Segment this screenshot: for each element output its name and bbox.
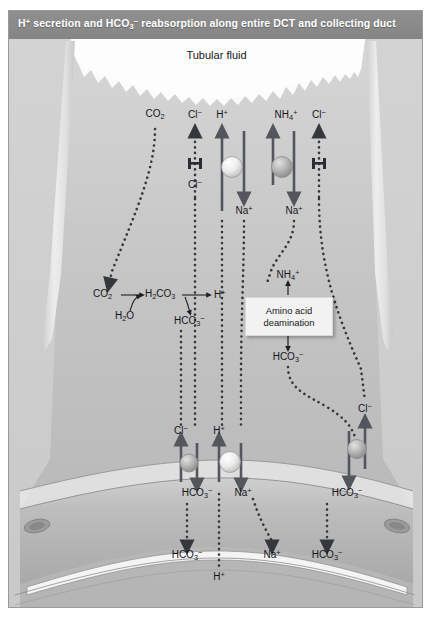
label-hco3-interstitium-right: HCO3− (312, 549, 343, 561)
label-cl-basolateral-right: Cl− (358, 403, 372, 414)
label-h-apical: H+ (216, 109, 228, 120)
label-cl-apical-left: Cl− (188, 109, 202, 120)
figure-panel: H+ secretion and HCO3− reabsorption alon… (8, 10, 423, 608)
label-na-interstitium: Na+ (263, 549, 280, 560)
label-h-interstitium: H+ (213, 571, 225, 582)
label-na-apical-1: Na+ (235, 205, 252, 216)
figure-title-bar: H+ secretion and HCO3− reabsorption alon… (9, 11, 423, 39)
label-na-basolateral: Na+ (234, 487, 251, 498)
label-cl-basolateral-left: Cl− (174, 425, 188, 436)
label-cl-intracellular: Cl− (188, 179, 202, 190)
label-nh4-apical: NH4+ (275, 109, 298, 121)
figure-stage: H+ secretion and HCO3− reabsorption alon… (0, 0, 431, 618)
page-title: H+ secretion and HCO3− reabsorption alon… (18, 17, 396, 31)
label-hco3-interstitium-left: HCO3− (172, 549, 203, 561)
label-hco3-deamination: HCO3− (273, 351, 304, 363)
label-h-reaction: H+ (214, 289, 226, 300)
label-co2-reaction: CO2 (93, 289, 112, 300)
label-h2co3: H2CO3 (145, 289, 175, 300)
label-co2-apical: CO2 (145, 109, 164, 120)
label-hco3-basolateral-left: HCO3− (182, 487, 213, 499)
label-na-apical-2: Na+ (285, 205, 302, 216)
label-cl-apical-right: Cl− (312, 109, 326, 120)
diagram-artwork (9, 39, 423, 608)
label-hco3-basolateral-right: HCO3− (332, 487, 363, 499)
amino-acid-deamination-box: Amino acid deamination (245, 297, 333, 336)
diagram-canvas: Tubular fluid CO2 Cl− H+ NH4+ Cl− Cl− Na… (9, 39, 423, 608)
lumen-label: Tubular fluid (186, 49, 246, 61)
label-h2o: H2O (115, 311, 134, 322)
label-nh4-deamination: NH4+ (277, 269, 300, 281)
label-hco3-reaction: HCO3− (174, 315, 205, 327)
label-h-basolateral: H+ (213, 425, 225, 436)
